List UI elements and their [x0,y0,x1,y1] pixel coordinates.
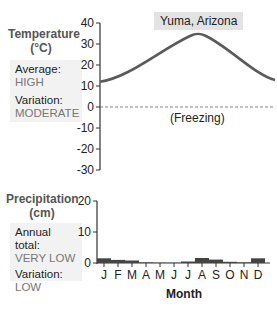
month-label: O [223,268,237,282]
month-label: M [153,268,167,282]
precip-title-line2: (cm) [6,206,78,220]
month-label: A [139,268,153,282]
month-label: S [209,268,223,282]
temperature-curve [100,34,275,82]
precip-tick: 10 [61,225,91,239]
month-label: A [195,268,209,282]
freezing-label: (Freezing) [170,111,225,125]
month-label: M [125,268,139,282]
x-axis-label: Month [166,287,202,301]
precip-tick: 20 [61,194,91,208]
month-label: J [167,268,181,282]
month-label: F [111,268,125,282]
month-label: J [181,268,195,282]
month-label: J [97,268,111,282]
chart-title: Yuma, Arizona [154,12,243,30]
precip-variation-value: LOW [15,281,77,294]
precip-bars [97,258,265,263]
precip-tick: 0 [61,256,91,270]
month-label: N [237,268,251,282]
month-label: D [251,268,265,282]
